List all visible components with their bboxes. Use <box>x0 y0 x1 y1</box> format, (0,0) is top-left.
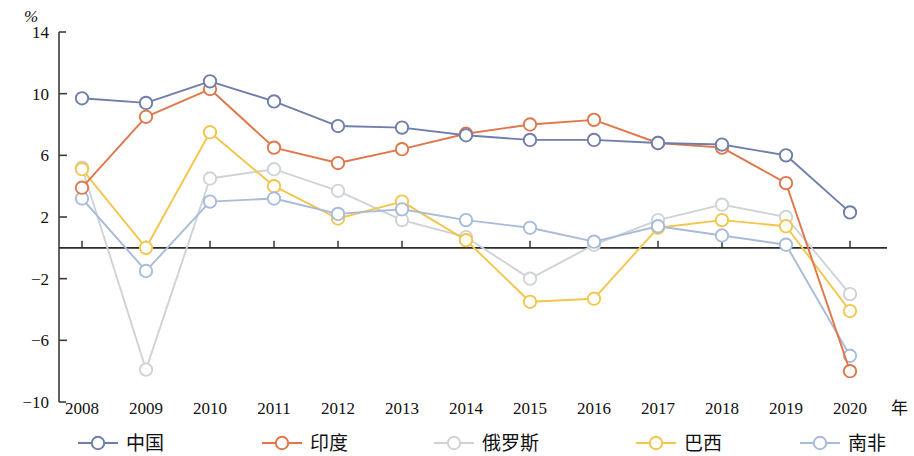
data-point <box>652 137 664 149</box>
data-point <box>780 177 792 189</box>
brics-gdp-growth-line-chart: %141062−2−6−1020082009201020112012201320… <box>0 0 914 456</box>
data-point <box>844 206 856 218</box>
data-point <box>588 114 600 126</box>
data-point <box>396 203 408 215</box>
data-point <box>460 234 472 246</box>
legend-item-5[interactable]: 南非 <box>800 432 886 454</box>
x-tick-label: 2009 <box>129 399 163 418</box>
data-point <box>716 138 728 150</box>
chart-container: %141062−2−6−1020082009201020112012201320… <box>0 0 914 456</box>
data-point <box>524 118 536 130</box>
data-point <box>76 163 88 175</box>
legend-label: 中国 <box>126 432 164 454</box>
y-tick-label: 10 <box>32 85 49 104</box>
legend-item-1[interactable]: 中国 <box>78 432 164 454</box>
legend-marker <box>92 437 104 449</box>
data-point <box>396 143 408 155</box>
legend-item-3[interactable]: 俄罗斯 <box>434 432 539 454</box>
data-point <box>844 305 856 317</box>
series-line <box>82 81 850 212</box>
data-point <box>588 293 600 305</box>
x-tick-label: 2012 <box>321 399 355 418</box>
y-tick-label: −6 <box>31 331 49 350</box>
data-point <box>204 195 216 207</box>
x-axis-labels: 2008200920102011201220132014201520162017… <box>65 398 908 418</box>
legend-label: 俄罗斯 <box>482 432 539 454</box>
data-point <box>332 208 344 220</box>
data-point <box>844 365 856 377</box>
data-point <box>716 198 728 210</box>
y-tick-label: 6 <box>41 146 50 165</box>
x-tick-label: 2020 <box>833 399 867 418</box>
data-point <box>332 185 344 197</box>
series-5 <box>76 192 856 362</box>
y-axis-ticks: 141062−2−6−10 <box>22 23 67 412</box>
series-3 <box>76 161 856 375</box>
legend-label: 巴西 <box>684 432 722 454</box>
data-point <box>204 172 216 184</box>
data-point <box>780 220 792 232</box>
data-point <box>716 214 728 226</box>
x-tick-label: 2013 <box>385 399 419 418</box>
data-point <box>780 239 792 251</box>
data-point <box>268 180 280 192</box>
data-point <box>460 214 472 226</box>
x-tick-label: 2008 <box>65 399 99 418</box>
data-point <box>588 235 600 247</box>
data-point <box>204 126 216 138</box>
data-point <box>204 75 216 87</box>
x-axis-unit-label: 年 <box>891 398 908 418</box>
x-tick-label: 2011 <box>257 399 290 418</box>
data-point <box>268 163 280 175</box>
data-point <box>460 129 472 141</box>
x-tick-label: 2018 <box>705 399 739 418</box>
data-point <box>76 182 88 194</box>
legend-marker <box>650 437 662 449</box>
data-point <box>76 92 88 104</box>
legend-marker <box>448 437 460 449</box>
data-point <box>268 95 280 107</box>
x-tick-label: 2017 <box>641 399 676 418</box>
data-point <box>332 157 344 169</box>
data-point <box>844 288 856 300</box>
data-point <box>524 222 536 234</box>
data-point <box>524 134 536 146</box>
data-point <box>140 242 152 254</box>
data-point <box>524 272 536 284</box>
data-point <box>396 121 408 133</box>
legend-item-4[interactable]: 巴西 <box>636 432 722 454</box>
data-point <box>716 229 728 241</box>
series-line <box>82 168 850 370</box>
x-tick-label: 2014 <box>449 399 484 418</box>
data-point <box>588 134 600 146</box>
data-point <box>140 265 152 277</box>
data-point <box>652 220 664 232</box>
data-point <box>268 192 280 204</box>
data-point <box>332 120 344 132</box>
data-point <box>268 141 280 153</box>
y-tick-label: −10 <box>22 393 49 412</box>
y-tick-label: −2 <box>31 270 49 289</box>
legend-label: 印度 <box>310 432 348 454</box>
y-tick-label: 14 <box>32 23 50 42</box>
data-point <box>140 363 152 375</box>
data-point <box>140 111 152 123</box>
legend-marker <box>814 437 826 449</box>
legend-item-2[interactable]: 印度 <box>262 432 348 454</box>
data-point <box>140 97 152 109</box>
legend-marker <box>276 437 288 449</box>
data-point <box>524 296 536 308</box>
legend: 中国印度俄罗斯巴西南非 <box>78 432 886 454</box>
y-tick-label: 2 <box>41 208 50 227</box>
x-tick-label: 2016 <box>577 399 611 418</box>
x-tick-label: 2015 <box>513 399 547 418</box>
x-tick-label: 2010 <box>193 399 227 418</box>
legend-label: 南非 <box>848 432 886 454</box>
x-tick-label: 2019 <box>769 399 803 418</box>
data-point <box>780 149 792 161</box>
